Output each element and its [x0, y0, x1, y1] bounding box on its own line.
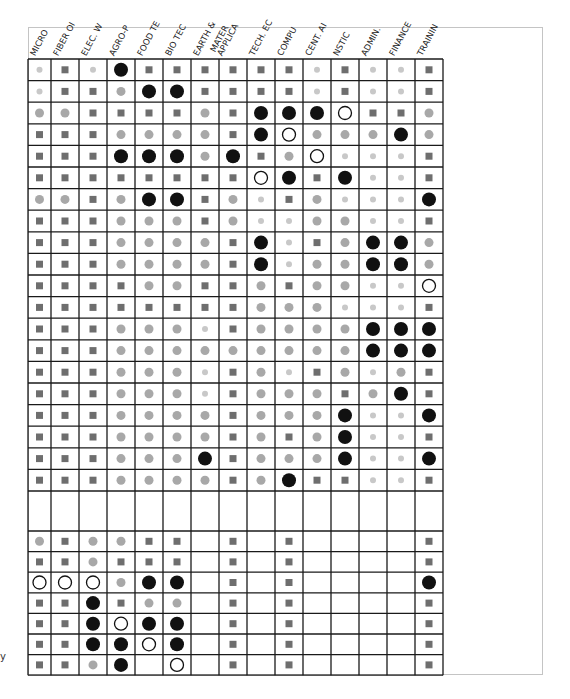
cell-symbol-light-dot: [370, 218, 376, 224]
cell-symbol-square: [286, 434, 293, 441]
cell-symbol-gray-circle: [145, 346, 154, 355]
cell-symbol-square: [146, 304, 153, 311]
cell-symbol-gray-circle: [173, 599, 182, 608]
cell-symbol-gray-circle: [145, 281, 154, 290]
cell-symbol-square: [426, 641, 433, 648]
cell-symbol-square: [36, 412, 43, 419]
cell-symbol-black-circle: [114, 149, 128, 163]
cell-symbol-square: [36, 661, 43, 668]
cell-symbol-open-circle: [283, 128, 296, 141]
cell-symbol-light-dot: [202, 326, 208, 332]
cell-symbol-gray-circle: [369, 389, 378, 398]
cell-symbol-square: [174, 558, 181, 565]
cell-symbol-square: [118, 174, 125, 181]
cell-symbol-gray-circle: [145, 325, 154, 334]
cell-symbol-gray-circle: [173, 433, 182, 442]
cell-symbol-black-circle: [170, 192, 184, 206]
cell-symbol-black-circle: [338, 171, 352, 185]
cell-symbol-gray-circle: [313, 217, 322, 226]
cell-symbol-gray-circle: [369, 130, 378, 139]
cell-symbol-gray-circle: [201, 130, 210, 139]
cell-symbol-square: [230, 455, 237, 462]
cell-symbol-square: [286, 620, 293, 627]
cell-symbol-square: [36, 239, 43, 246]
cell-symbol-gray-circle: [201, 476, 210, 485]
cell-symbol-light-dot: [258, 218, 264, 224]
cell-symbol-square: [62, 412, 69, 419]
cell-symbol-square: [174, 66, 181, 73]
cell-symbol-square: [286, 66, 293, 73]
cell-symbol-gray-circle: [117, 195, 126, 204]
cell-symbol-gray-circle: [117, 433, 126, 442]
cell-symbol-light-dot: [342, 153, 348, 159]
cell-symbol-square: [62, 174, 69, 181]
cell-symbol-square: [398, 110, 405, 117]
cell-symbol-open-circle: [115, 617, 128, 630]
cell-symbol-light-dot: [398, 434, 404, 440]
cell-symbol-square: [36, 131, 43, 138]
cell-symbol-black-circle: [142, 84, 156, 98]
cell-symbol-gray-circle: [313, 195, 322, 204]
cell-symbol-square: [118, 600, 125, 607]
cell-symbol-black-circle: [338, 430, 352, 444]
cell-symbol-square: [426, 304, 433, 311]
cell-symbol-square: [62, 641, 69, 648]
cell-symbol-gray-circle: [173, 260, 182, 269]
cell-symbol-light-dot: [370, 67, 376, 73]
cell-symbol-light-dot: [370, 412, 376, 418]
cell-symbol-black-circle: [366, 344, 380, 358]
cell-symbol-open-circle: [59, 576, 72, 589]
cell-symbol-square: [426, 477, 433, 484]
cell-symbol-gray-circle: [173, 411, 182, 420]
cell-symbol-gray-circle: [89, 537, 98, 546]
cell-symbol-square: [370, 110, 377, 117]
cell-symbol-square: [342, 477, 349, 484]
cell-symbol-black-circle: [142, 617, 156, 631]
cell-symbol-light-dot: [202, 391, 208, 397]
cell-symbol-square: [62, 218, 69, 225]
cell-symbol-gray-circle: [229, 217, 238, 226]
cell-symbol-square: [230, 174, 237, 181]
cell-symbol-gray-circle: [145, 217, 154, 226]
cell-symbol-gray-circle: [35, 537, 44, 546]
cell-symbol-light-dot: [370, 369, 376, 375]
cell-symbol-black-circle: [366, 257, 380, 271]
cell-symbol-gray-circle: [117, 368, 126, 377]
cell-symbol-square: [146, 558, 153, 565]
cell-symbol-gray-circle: [145, 130, 154, 139]
cell-symbol-square: [202, 66, 209, 73]
cell-symbol-square: [36, 434, 43, 441]
cell-symbol-square: [258, 88, 265, 95]
cell-symbol-square: [90, 434, 97, 441]
cell-symbol-light-dot: [398, 218, 404, 224]
cell-symbol-square: [36, 218, 43, 225]
cell-symbol-square: [426, 558, 433, 565]
cell-symbol-light-dot: [398, 477, 404, 483]
cell-symbol-square: [286, 88, 293, 95]
cell-symbol-gray-circle: [61, 109, 70, 118]
cell-symbol-square: [36, 261, 43, 268]
cell-symbol-gray-circle: [341, 281, 350, 290]
cell-symbol-gray-circle: [313, 389, 322, 398]
side-label: y: [0, 651, 6, 662]
cell-symbol-square: [62, 282, 69, 289]
cell-symbol-light-dot: [286, 240, 292, 246]
cell-symbol-square: [62, 239, 69, 246]
cell-symbol-square: [62, 600, 69, 607]
cell-symbol-square: [118, 558, 125, 565]
cell-symbol-square: [286, 282, 293, 289]
cell-symbol-light-dot: [370, 477, 376, 483]
cell-symbol-square: [90, 88, 97, 95]
cell-symbol-square: [230, 412, 237, 419]
cell-symbol-gray-circle: [313, 260, 322, 269]
cell-symbol-gray-circle: [117, 578, 126, 587]
cell-symbol-open-circle: [255, 171, 268, 184]
cell-symbol-open-circle: [87, 576, 100, 589]
cell-symbol-black-circle: [282, 106, 296, 120]
cell-symbol-gray-circle: [201, 152, 210, 161]
cell-symbol-black-circle: [170, 84, 184, 98]
cell-symbol-gray-circle: [173, 281, 182, 290]
cell-symbol-square: [36, 390, 43, 397]
cell-symbol-square: [230, 390, 237, 397]
cell-symbol-square: [230, 434, 237, 441]
